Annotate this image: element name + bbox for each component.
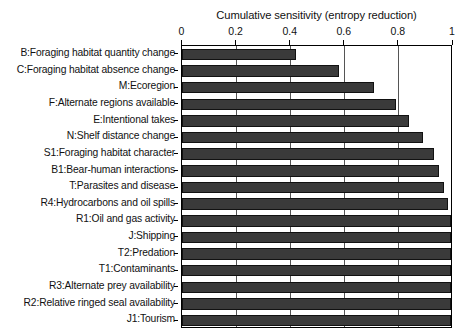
- category-label: E:Intentional takes: [93, 112, 175, 129]
- bar-row: [182, 146, 451, 163]
- bar: [182, 298, 451, 310]
- category-label: T:Parasites and disease: [69, 178, 175, 195]
- category-label: M:Ecoregion: [119, 78, 175, 95]
- y-tick-mark: [174, 203, 178, 204]
- bar: [182, 99, 396, 111]
- x-tick-label: 0.2: [228, 25, 243, 37]
- bar-row: [182, 296, 451, 313]
- y-tick-mark: [174, 87, 178, 88]
- y-tick-mark: [174, 253, 178, 254]
- category-label: B1:Bear-human interactions: [51, 162, 175, 179]
- bar: [182, 232, 451, 244]
- bar-row: [182, 163, 451, 180]
- bar-row: [182, 262, 451, 279]
- category-label: R1:Oil and gas activity: [76, 211, 175, 228]
- x-tick-label: 0.4: [282, 25, 297, 37]
- y-tick-mark: [174, 236, 178, 237]
- category-label: R2:Relative ringed seal availability: [24, 295, 175, 312]
- bar-row: [182, 179, 451, 196]
- category-label: C:Foraging habitat absence change: [17, 62, 175, 79]
- category-label: T1:Contaminants: [99, 261, 175, 278]
- y-tick-mark: [174, 120, 178, 121]
- y-tick-mark: [174, 286, 178, 287]
- bar-row: [182, 246, 451, 263]
- y-tick-mark: [174, 137, 178, 138]
- y-tick-mark: [174, 303, 178, 304]
- bar-row: [182, 113, 451, 130]
- plot-area: [181, 45, 452, 328]
- bar-row: [182, 46, 451, 63]
- y-tick-mark: [174, 220, 178, 221]
- bars-layer: [182, 46, 451, 327]
- category-label: J:Shipping: [128, 228, 175, 245]
- bar: [182, 49, 296, 61]
- y-tick-mark: [174, 170, 178, 171]
- bar: [182, 198, 448, 210]
- category-label: J1:Tourism: [127, 311, 175, 328]
- category-label: F:Alternate regions available: [49, 95, 175, 112]
- bar: [182, 282, 451, 294]
- bar: [182, 215, 451, 227]
- bar: [182, 182, 444, 194]
- category-label: N:Shelf distance change: [67, 128, 175, 145]
- bar-row: [182, 79, 451, 96]
- y-tick-mark: [174, 320, 178, 321]
- bar: [182, 148, 434, 160]
- bar: [182, 265, 451, 277]
- bar-row: [182, 129, 451, 146]
- bar: [182, 315, 451, 327]
- y-tick-mark: [174, 270, 178, 271]
- x-tick-label: 0.6: [336, 25, 351, 37]
- bar: [182, 165, 439, 177]
- bar-row: [182, 96, 451, 113]
- bar-row: [182, 312, 451, 329]
- category-label: S1:Foraging habitat character: [44, 145, 175, 162]
- bar: [182, 248, 451, 260]
- x-tick-label: 0: [179, 25, 185, 37]
- bar: [182, 82, 374, 94]
- y-tick-mark: [174, 103, 178, 104]
- y-tick-mark: [174, 153, 178, 154]
- x-axis-tick-labels: 00.20.40.60.81: [0, 25, 469, 39]
- x-tick-label: 1: [449, 25, 455, 37]
- bar: [182, 65, 339, 77]
- bar: [182, 132, 423, 144]
- category-label: R4:Hydrocarbons and oil spills: [40, 195, 175, 212]
- cumulative-sensitivity-bar-chart: Cumulative sensitivity (entropy reductio…: [0, 0, 469, 332]
- bar-row: [182, 212, 451, 229]
- bar-row: [182, 196, 451, 213]
- category-label: R3:Alternate prey availability: [49, 278, 175, 295]
- bar-row: [182, 279, 451, 296]
- bar-row: [182, 229, 451, 246]
- y-tick-mark: [174, 70, 178, 71]
- chart-title: Cumulative sensitivity (entropy reductio…: [181, 9, 452, 21]
- bar-row: [182, 63, 451, 80]
- category-label: T2:Predation: [118, 245, 175, 262]
- y-axis-category-labels: B:Foraging habitat quantity changeC:Fora…: [0, 45, 178, 328]
- x-tick-label: 0.8: [391, 25, 406, 37]
- y-tick-mark: [174, 187, 178, 188]
- y-tick-mark: [174, 53, 178, 54]
- category-label: B:Foraging habitat quantity change: [20, 45, 175, 62]
- bar: [182, 115, 409, 127]
